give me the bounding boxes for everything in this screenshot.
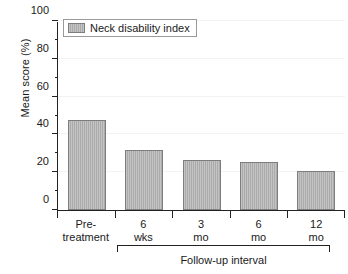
x-separator-tick — [172, 211, 173, 218]
x-label-line: mo — [287, 231, 345, 244]
y-tick-label-100: 100 — [31, 5, 49, 16]
bar-chart-figure: Mean score (%) 020406080100 Pre-treatmen… — [0, 0, 348, 274]
x-label-line: wks — [115, 231, 173, 244]
y-tick-label-0: 0 — [43, 194, 49, 205]
x-label-line: 6 — [115, 218, 173, 231]
y-tick-label-20: 20 — [37, 156, 49, 167]
bar-pre-treatment — [68, 120, 106, 210]
bar-cell — [173, 22, 230, 210]
x-label-line: 3 — [172, 218, 230, 231]
x-label-line: treatment — [57, 231, 115, 244]
bar-cell — [58, 22, 115, 210]
x-axis-category-labels: Pre-treatment6wks3mo6mo12mo — [57, 218, 345, 243]
x-label-line: 6 — [230, 218, 288, 231]
x-label-6-wks: 6wks — [115, 218, 173, 243]
x-separator-tick — [57, 211, 58, 218]
legend-swatch-neck-disability-index — [68, 23, 85, 33]
x-label-6-mo: 6mo — [230, 218, 288, 243]
chart-legend: Neck disability index — [63, 19, 197, 37]
x-separator-tick — [115, 211, 116, 218]
follow-up-bracket — [117, 245, 330, 252]
y-tick-label-60: 60 — [37, 80, 49, 91]
x-label-line: mo — [172, 231, 230, 244]
x-label-line: mo — [230, 231, 288, 244]
plot-area: 020406080100 — [57, 22, 345, 211]
bar-cell — [230, 22, 287, 210]
bar-cell — [115, 22, 172, 210]
legend-label-neck-disability-index: Neck disability index — [90, 22, 190, 34]
bar-series-neck-disability-index — [58, 22, 345, 210]
x-label-line: Pre- — [57, 218, 115, 231]
bar-3-mo — [183, 160, 221, 210]
x-axis-category-ticks — [57, 211, 345, 218]
x-label-3-mo: 3mo — [172, 218, 230, 243]
x-axis-group-title: Follow-up interval — [117, 254, 330, 266]
bar-6-wks — [125, 150, 163, 210]
y-axis-title: Mean score (%) — [19, 23, 31, 133]
bar-6-mo — [240, 162, 278, 210]
bar-cell — [288, 22, 345, 210]
y-tick-label-40: 40 — [37, 118, 49, 129]
y-tick-100 — [52, 20, 58, 21]
x-label-line: 12 — [287, 218, 345, 231]
y-tick-label-80: 80 — [37, 42, 49, 53]
x-label-12-mo: 12mo — [287, 218, 345, 243]
x-separator-tick — [344, 211, 345, 218]
x-separator-tick — [230, 211, 231, 218]
bar-12-mo — [297, 171, 335, 210]
x-separator-tick — [287, 211, 288, 218]
x-label-pre-treatment: Pre-treatment — [57, 218, 115, 243]
